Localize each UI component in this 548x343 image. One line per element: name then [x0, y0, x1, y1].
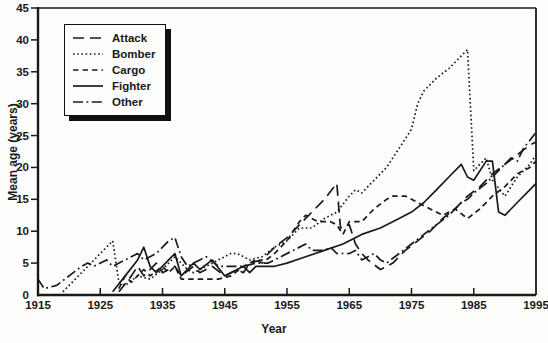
other-line-sample-icon: [72, 96, 104, 108]
x-tick-label-1915: 1915: [25, 299, 51, 311]
y-tick-label-45: 45: [16, 2, 29, 14]
y-tick-label-40: 40: [16, 34, 29, 46]
y-axis-title: Mean age (years): [6, 92, 20, 212]
chart-legend: Attack Bomber Cargo Fighter Other: [64, 24, 166, 116]
x-tick-label-1935: 1935: [150, 299, 176, 311]
legend-label-attack: Attack: [112, 30, 147, 46]
cargo-line-sample-icon: [72, 64, 104, 76]
x-tick-label-1965: 1965: [336, 299, 362, 311]
legend-item-attack: Attack: [72, 30, 155, 46]
legend-item-bomber: Bomber: [72, 46, 155, 62]
legend-label-other: Other: [112, 94, 143, 110]
y-tick-label-0: 0: [23, 289, 29, 301]
mean-age-line-chart: 1915192519351945195519651975198519950510…: [0, 0, 548, 343]
attack-line-sample-icon: [72, 32, 104, 44]
fighter-line-sample-icon: [72, 80, 104, 92]
series-line-fighter: [113, 161, 536, 292]
x-tick-label-1975: 1975: [399, 299, 425, 311]
x-tick-label-1995: 1995: [523, 299, 548, 311]
y-tick-label-35: 35: [16, 66, 29, 78]
bomber-line-sample-icon: [72, 48, 104, 60]
series-line-other: [38, 132, 536, 288]
x-tick-label-1945: 1945: [212, 299, 238, 311]
x-tick-label-1925: 1925: [87, 299, 113, 311]
x-tick-label-1955: 1955: [274, 299, 300, 311]
legend-item-other: Other: [72, 94, 155, 110]
x-tick-label-1985: 1985: [461, 299, 487, 311]
legend-label-cargo: Cargo: [112, 62, 145, 78]
legend-item-cargo: Cargo: [72, 62, 155, 78]
x-axis-title: Year: [0, 322, 548, 336]
y-tick-label-10: 10: [16, 225, 29, 237]
legend-item-fighter: Fighter: [72, 78, 155, 94]
legend-label-bomber: Bomber: [112, 46, 155, 62]
legend-label-fighter: Fighter: [112, 78, 151, 94]
y-tick-label-5: 5: [23, 257, 30, 269]
